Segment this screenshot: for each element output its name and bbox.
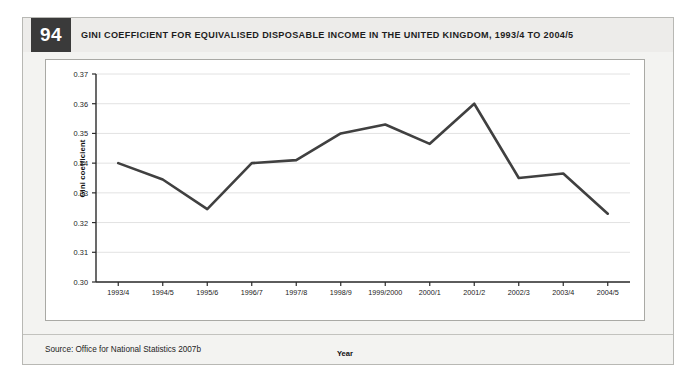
y-axis-tick-label: 0.35 xyxy=(58,129,88,138)
y-axis-tick-label: 0.34 xyxy=(58,159,88,168)
y-axis-tick-label: 0.33 xyxy=(58,188,88,197)
y-axis-tick-label: 0.32 xyxy=(58,218,88,227)
x-axis-tick-label: 1999/2000 xyxy=(368,288,402,297)
y-axis-tick-label: 0.37 xyxy=(58,70,88,79)
figure-panel: 94 GINI COEFFICIENT FOR EQUIVALISED DISP… xyxy=(22,17,674,365)
y-axis-tick-label: 0.36 xyxy=(58,99,88,108)
chart-plot-area: Gini coefficient Year 0.300.310.320.330.… xyxy=(46,60,644,320)
x-axis-tick-label: 2004/5 xyxy=(597,288,619,297)
y-axis-tick-label: 0.31 xyxy=(58,248,88,257)
x-axis-tick-label: 1996/7 xyxy=(241,288,263,297)
source-note: Source: Office for National Statistics 2… xyxy=(45,345,201,354)
figure-number-badge: 94 xyxy=(31,18,71,52)
x-axis-tick-label: 1993/4 xyxy=(107,288,129,297)
x-axis-tick-label: 1997/8 xyxy=(285,288,307,297)
figure-header: 94 GINI COEFFICIENT FOR EQUIVALISED DISP… xyxy=(23,18,673,52)
x-axis-tick-label: 2002/3 xyxy=(508,288,530,297)
x-axis-tick-label: 1998/9 xyxy=(330,288,352,297)
x-axis-tick-label: 2000/1 xyxy=(419,288,441,297)
chart-plot-card: Gini coefficient Year 0.300.310.320.330.… xyxy=(45,59,645,321)
x-axis-tick-label: 1994/5 xyxy=(152,288,174,297)
figure-title: GINI COEFFICIENT FOR EQUIVALISED DISPOSA… xyxy=(81,18,665,52)
figure-footer: Source: Office for National Statistics 2… xyxy=(23,334,673,364)
data-series-line xyxy=(118,104,608,214)
line-chart-svg xyxy=(46,60,646,320)
y-axis-tick-label: 0.30 xyxy=(58,278,88,287)
x-axis-tick-label: 2003/4 xyxy=(552,288,574,297)
x-axis-tick-label: 2001/2 xyxy=(463,288,485,297)
x-axis-tick-label: 1995/6 xyxy=(196,288,218,297)
